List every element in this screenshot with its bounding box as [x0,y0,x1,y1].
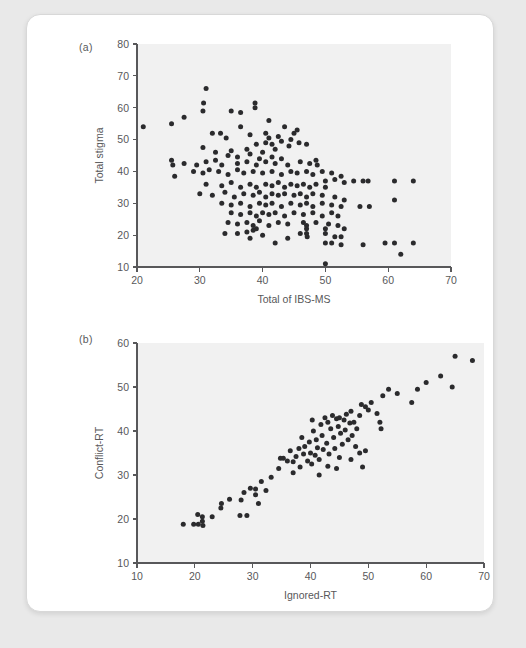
data-point [398,252,403,257]
data-point [450,385,455,390]
data-point [248,151,253,156]
data-point [375,411,380,416]
data-point [348,409,353,414]
data-point [337,415,342,420]
data-point [276,193,281,198]
data-point [298,191,303,196]
data-point [424,380,429,385]
data-point [304,226,309,231]
data-point [239,498,244,503]
y-tick-label: 50 [117,133,129,145]
data-point [339,204,344,209]
data-point [263,194,268,199]
data-point [244,220,249,225]
data-point [285,236,290,241]
data-point [313,220,318,225]
data-point [310,210,315,215]
data-point [226,172,231,177]
data-point [301,451,306,456]
data-point [237,513,242,518]
data-point [244,159,249,164]
data-point [342,180,347,185]
data-point [244,513,249,518]
data-point [308,451,313,456]
data-point [310,191,315,196]
data-point [218,131,223,136]
data-point [226,153,231,158]
data-point [323,226,328,231]
data-point [340,442,345,447]
data-point [204,182,209,187]
data-point [169,121,174,126]
data-point [297,140,302,145]
data-point [232,194,237,199]
data-point [195,512,200,517]
data-point [344,412,349,417]
data-point [257,156,262,161]
data-point [288,169,293,174]
data-point [348,457,353,462]
data-point [169,158,174,163]
data-point [367,204,372,209]
data-point [328,426,333,431]
data-point [238,110,243,115]
data-point [380,393,385,398]
data-point [338,431,343,436]
data-point [235,155,240,160]
data-point [248,182,253,187]
data-point [191,522,196,527]
x-tick-label: 70 [445,274,457,286]
data-point [320,201,325,206]
x-tick-label: 10 [131,570,143,582]
data-point [330,413,335,418]
data-point [263,488,268,493]
data-point [224,135,229,140]
data-point [279,156,284,161]
data-point [327,451,332,456]
data-point [361,178,366,183]
data-point [288,182,293,187]
x-tick-label: 50 [320,274,332,286]
data-point [323,178,328,183]
data-point [276,134,281,139]
data-point [332,234,337,239]
data-point [254,163,259,168]
x-axis-title: Ignored-RT [284,589,338,601]
data-point [253,100,258,105]
data-point [282,191,287,196]
data-point [411,241,416,246]
data-point [270,183,275,188]
data-point [270,142,275,147]
data-point [323,261,328,266]
data-point [288,137,293,142]
data-point [298,202,303,207]
data-point [273,161,278,166]
data-point [279,204,284,209]
data-point [369,400,374,405]
data-point [291,459,296,464]
y-tick-label: 70 [117,70,129,82]
data-point [326,221,331,226]
data-point [343,428,348,433]
data-point [282,185,287,190]
data-point [210,193,215,198]
data-point [222,231,227,236]
data-point [263,202,268,207]
data-point [298,465,303,470]
data-point [354,426,359,431]
data-point [360,465,365,470]
data-point [332,177,337,182]
data-point [229,210,234,215]
data-point [229,148,234,153]
data-point [357,451,362,456]
data-point [470,358,475,363]
data-point [170,163,175,168]
data-point [395,391,400,396]
data-point [273,210,278,215]
data-point [263,182,268,187]
data-point [307,440,312,445]
data-point [320,169,325,174]
data-point [141,124,146,129]
data-point [279,139,284,144]
data-point [411,178,416,183]
